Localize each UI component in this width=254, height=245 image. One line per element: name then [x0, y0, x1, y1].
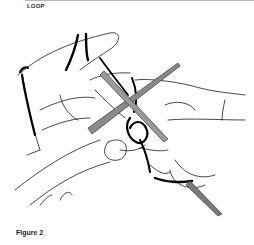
top-rule-divider	[25, 0, 254, 1]
hands-knitting-loop-icon	[0, 20, 254, 225]
figure-caption: Figure 2	[16, 229, 43, 236]
knitting-hands-illustration	[0, 20, 254, 225]
section-heading: LOOP	[27, 3, 45, 9]
